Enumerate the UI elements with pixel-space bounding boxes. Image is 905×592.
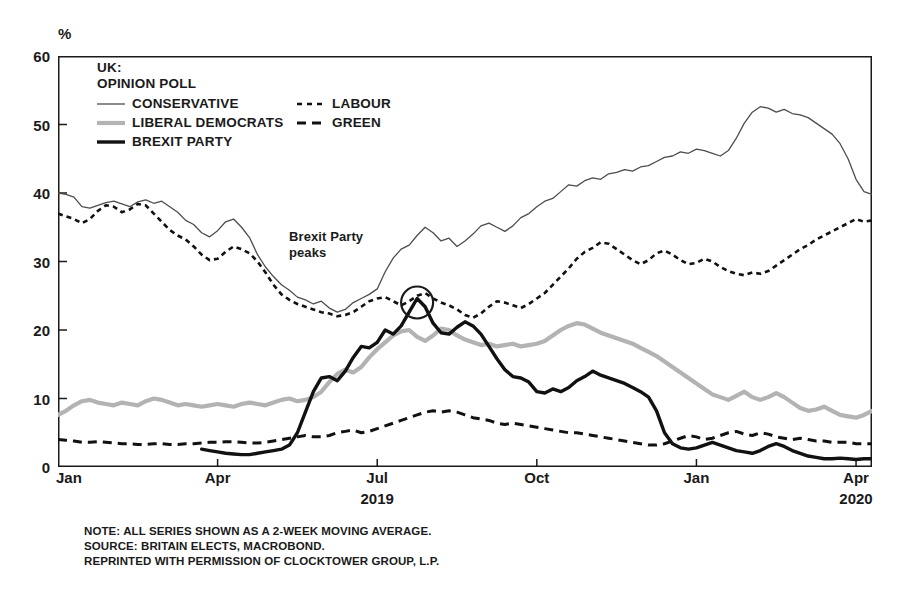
legend-item-libdem[interactable]: LIBERAL DEMOCRATS xyxy=(97,116,297,130)
legend-item-label: GREEN xyxy=(332,116,381,130)
legend-entries: CONSERVATIVELABOURLIBERAL DEMOCRATSGREEN… xyxy=(97,94,427,151)
legend-title-line2: OPINION POLL xyxy=(97,76,427,92)
x-axis-year-label: 2019 xyxy=(361,491,394,506)
x-axis-year-label: 2020 xyxy=(839,491,872,506)
footnote-note: NOTE: ALL SERIES SHOWN AS A 2-WEEK MOVIN… xyxy=(84,524,439,539)
legend-item-label: LIBERAL DEMOCRATS xyxy=(132,116,283,130)
x-tick-label: Apr xyxy=(205,470,231,485)
legend-item-conservative[interactable]: CONSERVATIVE xyxy=(97,97,297,111)
y-tick-label: 60 xyxy=(33,49,50,64)
x-tick-label: Oct xyxy=(524,470,549,485)
x-tick-label: Jan xyxy=(56,470,82,485)
footnote-source: SOURCE: BRITAIN ELECTS, MACROBOND. xyxy=(84,539,439,554)
legend-row: BREXIT PARTY xyxy=(97,132,427,151)
chart-legend: UK: OPINION POLL CONSERVATIVELABOURLIBER… xyxy=(97,60,427,151)
legend-title: UK: OPINION POLL xyxy=(97,60,427,92)
line-solid-heavy-icon xyxy=(97,135,125,149)
annotation-line1: Brexit Party xyxy=(289,229,363,245)
legend-title-line1: UK: xyxy=(97,60,427,76)
x-tick-label: Jan xyxy=(683,470,709,485)
legend-item-green[interactable]: GREEN xyxy=(297,116,381,130)
series-line-green xyxy=(58,411,872,445)
legend-item-label: CONSERVATIVE xyxy=(132,97,239,111)
series-line-labour xyxy=(58,204,872,318)
brexit-peaks-annotation: Brexit Party peaks xyxy=(289,229,363,261)
x-axis-labels: JanAprJulOctJanApr xyxy=(0,470,905,492)
y-tick-label: 40 xyxy=(33,186,50,201)
legend-item-brexit[interactable]: BREXIT PARTY xyxy=(97,135,297,149)
line-dotted-icon xyxy=(297,97,325,111)
chart-footnotes: NOTE: ALL SERIES SHOWN AS A 2-WEEK MOVIN… xyxy=(84,524,439,569)
chart-page: % 0102030405060 JanAprJulOctJanApr 20192… xyxy=(0,0,905,592)
legend-item-label: LABOUR xyxy=(332,97,391,111)
y-tick-label: 10 xyxy=(33,391,50,406)
y-axis-labels: 0102030405060 xyxy=(0,56,50,467)
y-tick-label: 30 xyxy=(33,254,50,269)
annotation-line2: peaks xyxy=(289,245,363,261)
legend-item-label: BREXIT PARTY xyxy=(132,135,232,149)
footnote-permission: REPRINTED WITH PERMISSION OF CLOCKTOWER … xyxy=(84,554,439,569)
legend-item-labour[interactable]: LABOUR xyxy=(297,97,391,111)
series-line-libdem xyxy=(58,323,872,418)
y-axis-unit-label: % xyxy=(58,26,71,41)
x-tick-label: Jul xyxy=(366,470,388,485)
line-solid-thin-icon xyxy=(97,97,125,111)
line-dashed-icon xyxy=(297,116,325,130)
x-tick-label: Apr xyxy=(843,470,869,485)
x-axis-year-labels: 20192020 xyxy=(0,491,905,513)
y-tick-label: 20 xyxy=(33,323,50,338)
y-tick-label: 50 xyxy=(33,117,50,132)
legend-row: CONSERVATIVELABOUR xyxy=(97,94,427,113)
legend-row: LIBERAL DEMOCRATSGREEN xyxy=(97,113,427,132)
line-solid-thick-gray-icon xyxy=(97,116,125,130)
